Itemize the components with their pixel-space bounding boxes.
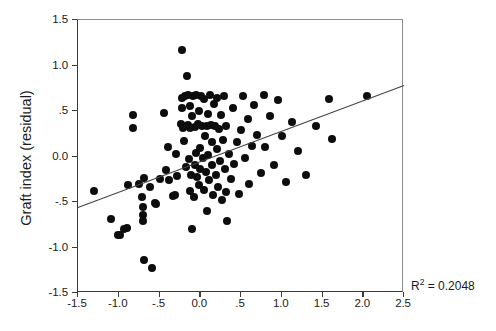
y-axis-tick-label: 0.0 bbox=[52, 150, 68, 162]
x-axis-tick-label: 0.0 bbox=[191, 297, 207, 309]
x-axis-tick-label: -1.0 bbox=[108, 297, 127, 309]
y-axis-tick-label: -1.5 bbox=[49, 286, 68, 298]
y-axis-tick-label: 1.0 bbox=[52, 59, 68, 71]
x-axis-tick-label: 1.0 bbox=[273, 297, 289, 309]
x-axis-tick-label: 1.5 bbox=[314, 297, 330, 309]
y-axis-tick-label: -1.0 bbox=[49, 241, 68, 253]
y-axis-tick-label: -.5 bbox=[55, 195, 68, 207]
x-axis-tick-label: -1.5 bbox=[67, 297, 86, 309]
r-squared-annotation: R2 = 0.2048 bbox=[411, 277, 475, 293]
y-axis-tick-label: 1.5 bbox=[52, 13, 68, 25]
x-axis-tick-label: 2.5 bbox=[395, 297, 411, 309]
y-axis-tick-labels: -1.5-1.0-.50.0.51.01.5 bbox=[0, 0, 68, 331]
x-axis-tick-label: 2.0 bbox=[354, 297, 370, 309]
r-symbol: R bbox=[411, 279, 420, 293]
x-axis-tick-label: -.5 bbox=[152, 297, 165, 309]
r-squared-value: = 0.2048 bbox=[424, 279, 474, 293]
plot-area bbox=[77, 19, 403, 292]
regression-line bbox=[78, 20, 404, 293]
x-axis-tick-label: .5 bbox=[235, 297, 244, 309]
y-axis-tick-label: .5 bbox=[59, 104, 68, 116]
scatter-plot-figure: Graft index (residual) -1.5-1.0-.50.0.51… bbox=[0, 0, 496, 331]
